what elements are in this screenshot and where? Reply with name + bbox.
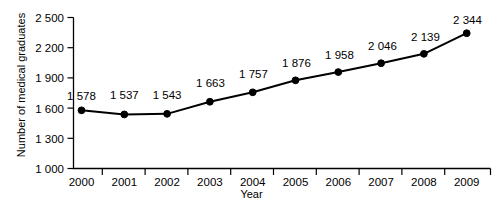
x-tick-label: 2004 (240, 176, 266, 188)
data-point-marker (164, 110, 171, 117)
y-tick-label: 1 900 (35, 72, 64, 84)
x-tick-label: 2000 (69, 176, 95, 188)
data-series-line (82, 33, 467, 114)
data-point-marker (207, 98, 214, 105)
data-point-label: 1 663 (196, 77, 225, 89)
x-tick-label: 2001 (112, 176, 138, 188)
data-point-label: 1 958 (325, 49, 354, 61)
data-point-label: 1 578 (67, 90, 96, 102)
data-point-marker (292, 77, 299, 84)
line-chart-plot: 2 500 2 200 1 900 1 600 1 300 1 000 2000… (0, 0, 503, 210)
y-axis-title: Number of medical graduates (15, 0, 29, 170)
data-point-label: 2 046 (368, 40, 397, 52)
data-point-label: 2 344 (453, 14, 482, 26)
data-point-labels: 1 578 1 537 1 543 1 663 1 757 1 876 1 95… (67, 14, 482, 102)
y-axis-tick-labels: 2 500 2 200 1 900 1 600 1 300 1 000 (35, 12, 64, 175)
x-tick-label: 2009 (454, 176, 480, 188)
y-tick-label: 1 300 (35, 133, 64, 145)
x-axis-tick-labels: 2000 2001 2002 2003 2004 2005 2006 2007 … (69, 176, 480, 188)
x-tick-label: 2006 (326, 176, 352, 188)
x-tick-label: 2005 (283, 176, 309, 188)
data-point-marker (378, 60, 385, 67)
data-point-label: 1 537 (110, 89, 139, 101)
data-point-label: 1 543 (153, 89, 182, 101)
y-tick-label: 1 000 (35, 163, 64, 175)
chart-figure: 2 500 2 200 1 900 1 600 1 300 1 000 2000… (0, 0, 503, 210)
x-tick-label: 2003 (197, 176, 223, 188)
data-point-label: 1 876 (282, 57, 311, 69)
y-tick-label: 2 200 (35, 42, 64, 54)
data-point-label: 2 139 (411, 31, 440, 43)
data-point-marker (463, 30, 470, 37)
y-tick-label: 1 600 (35, 103, 64, 115)
x-tick-label: 2008 (411, 176, 437, 188)
data-point-marker (121, 111, 128, 118)
data-point-marker (78, 107, 85, 114)
data-point-marker (249, 89, 256, 96)
x-tick-label: 2002 (154, 176, 180, 188)
x-tick-label: 2007 (368, 176, 394, 188)
data-point-markers (78, 30, 470, 118)
data-point-label: 1 757 (239, 68, 268, 80)
data-point-marker (421, 50, 428, 57)
data-point-marker (335, 69, 342, 76)
x-axis-title: Year (0, 188, 503, 200)
y-tick-label: 2 500 (35, 12, 64, 24)
x-axis-ticks (102, 169, 490, 176)
